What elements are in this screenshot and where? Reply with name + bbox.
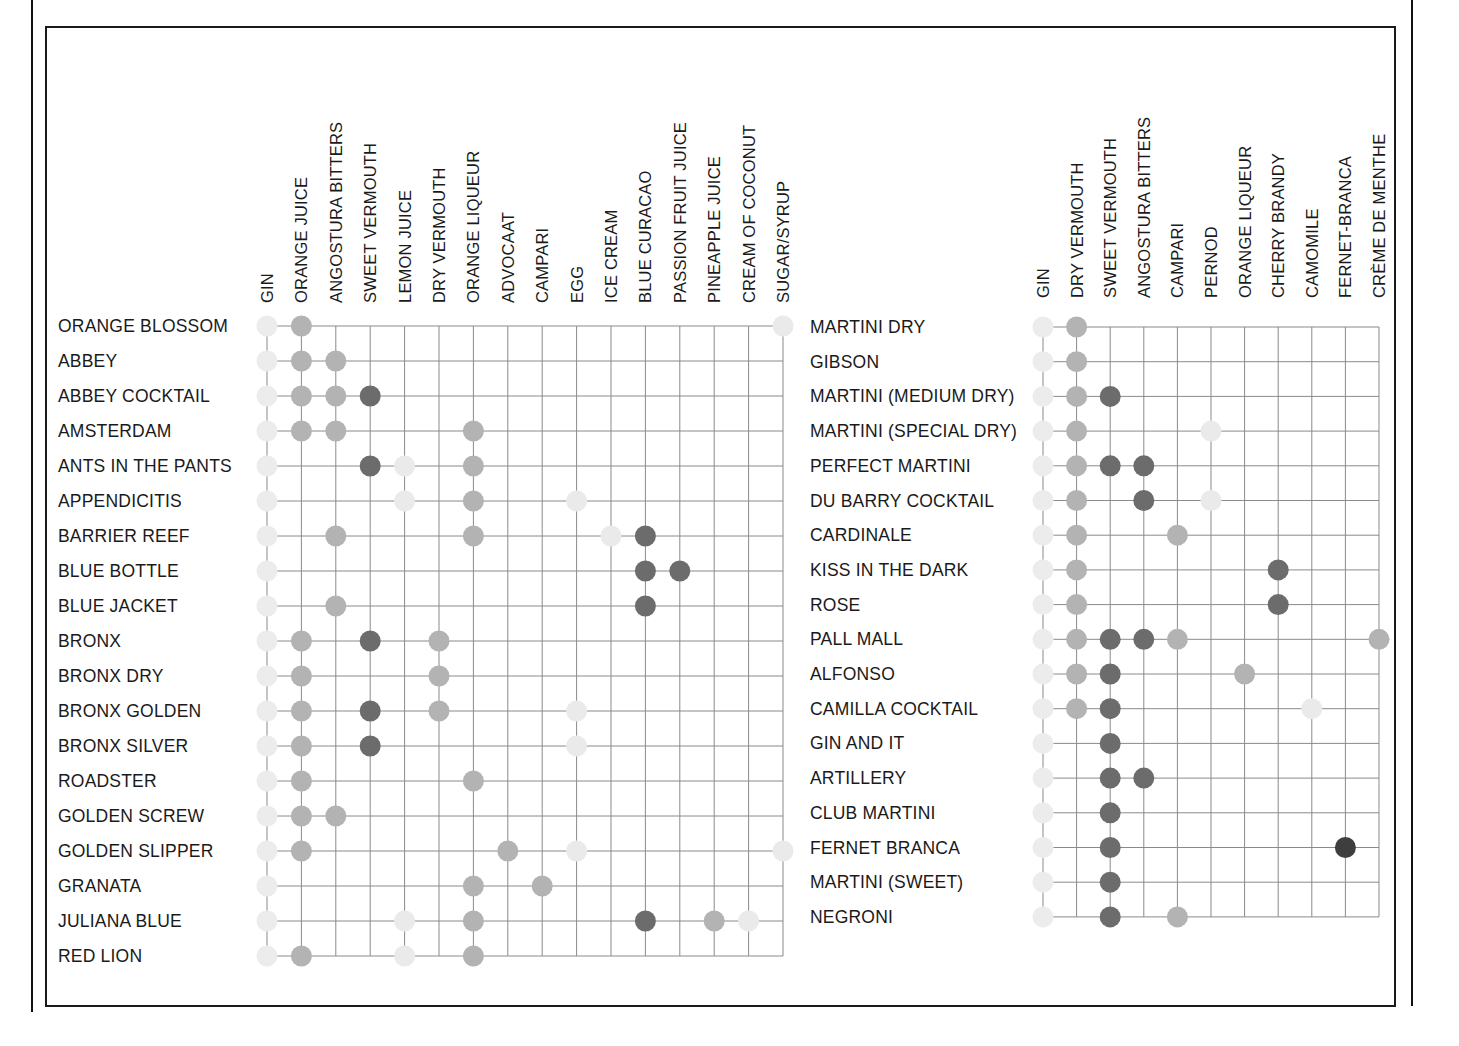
- column-header: GIN: [258, 273, 276, 303]
- ingredient-dot: [463, 491, 484, 512]
- ingredient-dot: [566, 491, 587, 512]
- ingredient-dot: [257, 911, 278, 932]
- ingredient-dot: [257, 526, 278, 547]
- ingredient-dot: [325, 351, 346, 372]
- ingredient-dot: [1133, 490, 1154, 511]
- row-label: APPENDICITIS: [58, 491, 182, 511]
- ingredient-dot: [291, 666, 312, 687]
- ingredient-dot: [1133, 629, 1154, 650]
- ingredient-dot: [1100, 768, 1121, 789]
- column-header: CREAM OF COCONUT: [740, 125, 758, 303]
- ingredient-dot: [1201, 490, 1222, 511]
- ingredient-dot: [257, 946, 278, 967]
- row-label: BRONX SILVER: [58, 736, 188, 756]
- ingredient-dot: [773, 841, 794, 862]
- ingredient-dot: [1033, 698, 1054, 719]
- ingredient-dot: [635, 596, 656, 617]
- ingredient-dot: [325, 526, 346, 547]
- ingredient-dot: [257, 841, 278, 862]
- column-header: SWEET VERMOUTH: [1101, 138, 1119, 298]
- row-label: CARDINALE: [810, 525, 912, 545]
- ingredient-dot: [463, 456, 484, 477]
- ingredient-dot: [463, 771, 484, 792]
- ingredient-dot: [463, 526, 484, 547]
- ingredient-dot: [257, 561, 278, 582]
- row-label: MARTINI DRY: [810, 317, 925, 337]
- column-header: ANGOSTURA BITTERS: [327, 122, 345, 303]
- ingredient-dot: [1100, 664, 1121, 685]
- ingredient-dot: [1033, 386, 1054, 407]
- ingredient-dot: [257, 421, 278, 442]
- ingredient-dot: [1066, 490, 1087, 511]
- ingredient-dot: [1033, 559, 1054, 580]
- ingredient-dot: [257, 596, 278, 617]
- ingredient-dot: [325, 596, 346, 617]
- ingredient-dot: [1066, 594, 1087, 615]
- ingredient-dot: [291, 946, 312, 967]
- column-header: LEMON JUICE: [396, 190, 414, 303]
- ingredient-dot: [1033, 733, 1054, 754]
- column-header: ORANGE LIQUEUR: [464, 151, 482, 303]
- row-label: BARRIER REEF: [58, 526, 190, 546]
- ingredient-dot: [291, 351, 312, 372]
- ingredient-dot: [257, 876, 278, 897]
- column-header: DRY VERMOUTH: [430, 167, 448, 303]
- row-label: GRANATA: [58, 876, 142, 896]
- ingredient-dot: [1033, 837, 1054, 858]
- ingredient-dot: [532, 876, 553, 897]
- row-label: ROSE: [810, 595, 860, 615]
- column-header: FERNET-BRANCA: [1336, 156, 1354, 298]
- column-header: GIN: [1034, 268, 1052, 298]
- ingredient-dot: [463, 876, 484, 897]
- column-header: ORANGE LIQUEUR: [1236, 146, 1254, 298]
- ingredient-dot: [291, 316, 312, 337]
- ingredient-dot: [360, 701, 381, 722]
- ingredient-dot: [257, 806, 278, 827]
- ingredient-dot: [635, 911, 656, 932]
- ingredient-dot: [1066, 421, 1087, 442]
- ingredient-dot: [394, 456, 415, 477]
- ingredient-dot: [669, 561, 690, 582]
- ingredient-dot: [1033, 768, 1054, 789]
- row-label: GIN AND IT: [810, 733, 904, 753]
- row-label: AMSTERDAM: [58, 421, 172, 441]
- ingredient-dot: [291, 806, 312, 827]
- ingredient-dot: [1133, 768, 1154, 789]
- row-label: PERFECT MARTINI: [810, 456, 971, 476]
- row-label: GOLDEN SCREW: [58, 806, 205, 826]
- ingredient-dot: [1066, 525, 1087, 546]
- row-label: FERNET BRANCA: [810, 838, 960, 858]
- ingredient-dot: [1033, 525, 1054, 546]
- ingredient-dot: [1369, 629, 1390, 650]
- ingredient-dot: [1033, 490, 1054, 511]
- column-header: PINEAPPLE JUICE: [705, 156, 723, 303]
- ingredient-dot: [773, 316, 794, 337]
- column-header: ICE CREAM: [602, 210, 620, 303]
- column-header: PASSION FRUIT JUICE: [671, 122, 689, 303]
- ingredient-dot: [257, 736, 278, 757]
- ingredient-dot: [1167, 629, 1188, 650]
- ingredient-dot: [325, 806, 346, 827]
- ingredient-dot: [1133, 455, 1154, 476]
- ingredient-dot: [1167, 525, 1188, 546]
- column-header: DRY VERMOUTH: [1068, 162, 1086, 298]
- ingredient-dot: [291, 736, 312, 757]
- ingredient-dot: [1167, 906, 1188, 927]
- column-header: ORANGE JUICE: [292, 177, 310, 303]
- ingredient-dot: [291, 841, 312, 862]
- ingredient-dot: [1100, 629, 1121, 650]
- ingredient-dot: [1234, 664, 1255, 685]
- ingredient-dot: [1100, 733, 1121, 754]
- ingredient-dot: [1268, 559, 1289, 580]
- ingredient-dot: [1100, 872, 1121, 893]
- row-label: ARTILLERY: [810, 768, 907, 788]
- column-header: ADVOCAAT: [499, 212, 517, 303]
- ingredient-dot: [291, 771, 312, 792]
- ingredient-dot: [497, 841, 518, 862]
- row-label: PALL MALL: [810, 629, 903, 649]
- row-label: GIBSON: [810, 352, 879, 372]
- ingredient-dot: [429, 631, 450, 652]
- row-label: GOLDEN SLIPPER: [58, 841, 214, 861]
- ingredient-dot: [257, 666, 278, 687]
- ingredient-dot: [1066, 698, 1087, 719]
